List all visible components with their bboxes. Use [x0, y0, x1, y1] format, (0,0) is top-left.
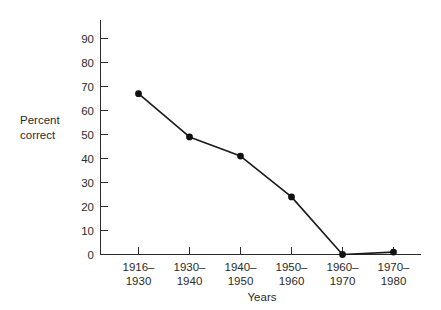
- y-tick-label-40: 40: [81, 153, 94, 165]
- data-series-line: [139, 94, 394, 255]
- y-tick-label-80: 80: [81, 57, 94, 69]
- data-point: [390, 249, 397, 256]
- data-point: [186, 134, 193, 141]
- x-axis-tick-labels: 1916– 1930 1930– 1940 1940– 1950 1950– 1…: [123, 261, 411, 287]
- x-tick-label-5-line2: 1980: [381, 275, 407, 287]
- x-tick-label-1-line2: 1940: [177, 275, 203, 287]
- x-tick-label-1-line1: 1930–: [174, 261, 207, 273]
- y-tick-label-10: 10: [81, 225, 94, 237]
- y-tick-label-70: 70: [81, 81, 94, 93]
- x-tick-label-3-line1: 1950–: [276, 261, 309, 273]
- y-tick-label-0: 0: [88, 249, 94, 261]
- y-tick-label-20: 20: [81, 201, 94, 213]
- y-tick-label-30: 30: [81, 177, 94, 189]
- y-tick-label-50: 50: [81, 129, 94, 141]
- x-tick-label-3-line2: 1960: [279, 275, 305, 287]
- y-axis-tick-labels: 0 10 20 30 40 50 60 70 80 90: [81, 33, 94, 261]
- x-tick-label-2-line2: 1950: [228, 275, 254, 287]
- y-axis-title-line1: Percent: [20, 114, 60, 126]
- line-chart-plot: 0 10 20 30 40 50 60 70 80 90 Percent cor…: [0, 0, 441, 310]
- data-point: [339, 251, 346, 258]
- x-tick-label-4-line2: 1970: [330, 275, 356, 287]
- x-tick-label-2-line1: 1940–: [225, 261, 258, 273]
- data-series-markers: [135, 90, 397, 258]
- data-point: [135, 90, 142, 97]
- x-tick-label-0-line1: 1916–: [123, 261, 156, 273]
- x-tick-label-4-line1: 1960–: [327, 261, 360, 273]
- data-point: [237, 153, 244, 160]
- x-tick-label-0-line2: 1930: [126, 275, 152, 287]
- chart-figure: 0 10 20 30 40 50 60 70 80 90 Percent cor…: [0, 0, 441, 310]
- y-tick-label-90: 90: [81, 33, 94, 45]
- x-tick-label-5-line1: 1970–: [378, 261, 411, 273]
- y-axis-title: Percent correct: [20, 114, 60, 141]
- y-tick-label-60: 60: [81, 105, 94, 117]
- data-point: [288, 194, 295, 201]
- x-axis-title: Years: [248, 291, 277, 303]
- y-axis-ticks: [101, 39, 109, 255]
- y-axis-title-line2: correct: [20, 129, 56, 141]
